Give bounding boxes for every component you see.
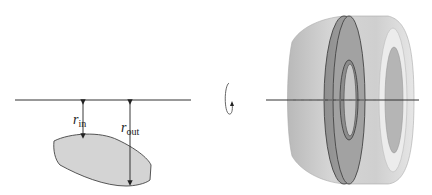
r-in-label: rin bbox=[73, 112, 86, 129]
right-panel-solid-of-revolution bbox=[266, 16, 419, 184]
plane-region bbox=[54, 134, 151, 186]
washer-method-diagram: rin rout bbox=[0, 0, 432, 195]
rotate-about-axis-icon bbox=[225, 83, 234, 114]
left-panel-2d-region: rin rout bbox=[15, 100, 191, 186]
